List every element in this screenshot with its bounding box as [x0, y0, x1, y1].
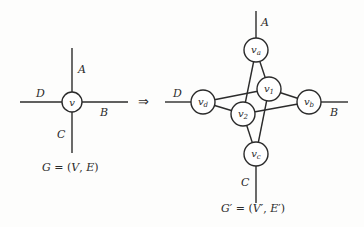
- left-graph-caption: G = (V, E): [42, 161, 99, 174]
- vertex-v1: v1: [257, 77, 281, 101]
- left-graph: v A B C D G = (V, E): [20, 48, 128, 174]
- vertex-v2: v2: [231, 102, 255, 126]
- label-b: B: [99, 106, 108, 119]
- graph-transformation-diagram: v A B C D G = (V, E) ⇒ va v1: [0, 0, 364, 227]
- label-b-right: B: [329, 106, 338, 119]
- vertex-vd: vd: [191, 90, 215, 114]
- label-d: D: [35, 87, 45, 100]
- label-d-right: D: [172, 87, 182, 100]
- right-graph: va v1 vb vd v2 vc A B C D G′ = (V′, E′): [165, 11, 348, 215]
- transform-arrow-icon: ⇒: [138, 94, 149, 109]
- vertex-vb: vb: [297, 90, 321, 114]
- label-c: C: [57, 128, 66, 141]
- vertex-va: va: [244, 38, 268, 62]
- vertex-vc: vc: [244, 142, 268, 166]
- label-a: A: [77, 63, 86, 76]
- diagram-canvas: v A B C D G = (V, E) ⇒ va v1: [0, 0, 364, 227]
- label-a-right: A: [260, 16, 269, 29]
- vertex-v-label: v: [69, 97, 75, 108]
- label-c-right: C: [241, 176, 250, 189]
- right-graph-caption: G′ = (V′, E′): [221, 202, 285, 215]
